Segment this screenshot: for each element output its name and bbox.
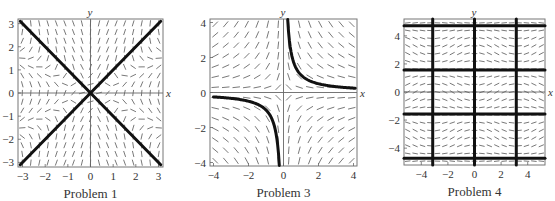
y-tick-label: 4 [395,30,401,42]
solution-curve [288,20,356,89]
y-tick-label: −4 [194,157,206,169]
y-tick-label: −4 [388,142,400,154]
x-tick-label: 4 [525,168,531,180]
y-axis-label: y [280,6,286,18]
x-tick-label: 3 [156,170,162,182]
y-tick-label: −2 [194,122,206,134]
x-tick-label: −4 [208,169,220,181]
x-tick-label: −4 [415,168,427,180]
y-tick-label: 0 [395,86,401,98]
solution-curve [214,97,280,166]
y-tick-label: 3 [9,18,15,30]
plot-caption: Problem 1 [64,186,118,201]
slope-field-plot-3: xy−4−2024−4−2024Problem 3 [185,0,370,201]
x-axis-label: x [547,86,553,98]
x-tick-label: 4 [351,169,357,181]
y-axis-label: y [87,6,93,18]
y-tick-label: 1 [9,64,15,76]
chart-problem-1: xy−3−2−10123−3−2−10123Problem 1 [0,0,185,201]
slope-field-plot-1: xy−3−2−10123−3−2−10123Problem 1 [0,0,185,201]
x-tick-label: −1 [62,170,74,182]
x-tick-label: 2 [316,169,322,181]
y-tick-label: 0 [9,87,15,99]
x-axis-label: x [359,87,365,99]
y-tick-label: 4 [201,17,207,29]
x-tick-label: 1 [110,170,116,182]
y-tick-label: −1 [2,110,14,122]
slope-field-plot-4: xy−4−2024−4−2024Problem 4 [370,0,555,201]
y-tick-label: 2 [395,58,401,70]
chart-problem-3: xy−4−2024−4−2024Problem 3 [185,0,370,201]
x-axis-label: x [165,87,171,99]
x-tick-label: 0 [472,168,478,180]
y-tick-label: 2 [9,41,15,53]
x-tick-label: −2 [39,170,51,182]
x-tick-label: −3 [17,170,29,182]
chart-problem-4: xy−4−2024−4−2024Problem 4 [370,0,555,201]
x-tick-label: −2 [243,169,255,181]
y-tick-label: 0 [201,87,207,99]
y-tick-label: −2 [2,133,14,145]
y-axis-label: y [471,6,477,18]
x-tick-label: 0 [88,170,94,182]
plot-caption: Problem 3 [257,185,311,200]
y-tick-label: −3 [2,156,14,168]
y-tick-label: −2 [388,114,400,126]
y-tick-label: 2 [201,52,207,64]
x-tick-label: 2 [498,168,504,180]
plot-caption: Problem 4 [448,184,502,199]
x-tick-label: 2 [133,170,139,182]
x-tick-label: 0 [281,169,287,181]
x-tick-label: −2 [442,168,454,180]
